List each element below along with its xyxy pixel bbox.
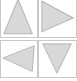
triangle-up-icon: [1, 0, 37, 37]
triangle-left-icon: [39, 0, 76, 37]
triangle-grid-figure: [0, 0, 77, 81]
triangle-left-icon: [1, 41, 37, 77]
panel-bottom-left: [0, 40, 38, 78]
triangle-shape: [4, 0, 32, 34]
panel-top-right: [38, 0, 77, 38]
panel-grid: [0, 0, 77, 81]
triangle-down-icon: [39, 41, 76, 77]
triangle-shape: [43, 44, 71, 73]
triangle-shape: [3, 46, 34, 72]
triangle-shape: [42, 1, 73, 32]
panel-top-left: [0, 0, 38, 38]
panel-bottom-right: [38, 40, 77, 78]
